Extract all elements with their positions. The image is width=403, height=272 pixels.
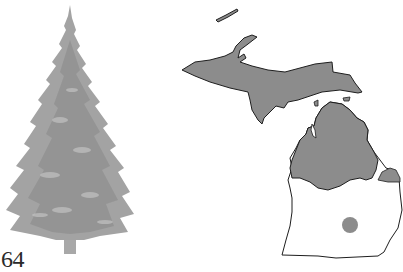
isle-royale [216, 9, 238, 22]
spruce-tree-illustration [0, 0, 140, 255]
michigan-range-map [170, 0, 403, 272]
northern-lower-peninsula-range [290, 102, 378, 190]
page-number: 64 [1, 247, 24, 271]
isolated-population-dot [342, 217, 358, 233]
tree-trunk [64, 238, 76, 254]
spruce-tree-icon [6, 5, 134, 254]
